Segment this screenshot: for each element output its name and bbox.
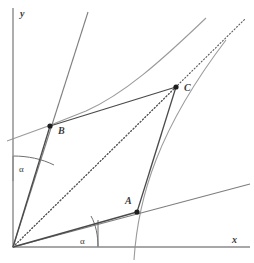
segment-A-to-origin — [13, 212, 137, 247]
curves-group — [7, 18, 226, 260]
figure-canvas: α α A B C — [0, 0, 254, 263]
angle-alpha-lower-label: α — [80, 236, 85, 246]
hyperbola-branch-upper-left-curve — [7, 18, 206, 141]
point-B-label: B — [57, 125, 65, 136]
point-A-label: A — [124, 195, 132, 206]
point-C-dot — [173, 84, 178, 89]
angle-alpha-lower-arc — [91, 216, 98, 247]
point-A-dot — [134, 209, 139, 214]
y-axis-label: y — [19, 8, 25, 19]
x-axis-label: x — [231, 234, 237, 245]
point-C-label: C — [184, 82, 191, 93]
angle-alpha-upper-group: α — [13, 156, 54, 181]
angle-alpha-upper-label: α — [19, 164, 24, 174]
hyperbola-branch-lower-right-curve — [134, 40, 226, 260]
angle-alpha-lower-group: α — [80, 216, 98, 247]
point-B-dot — [47, 123, 52, 128]
segment-B-to-C — [50, 87, 176, 126]
geometry-figure: α α A B C — [0, 0, 254, 263]
point-labels-group: A B C — [57, 82, 191, 206]
